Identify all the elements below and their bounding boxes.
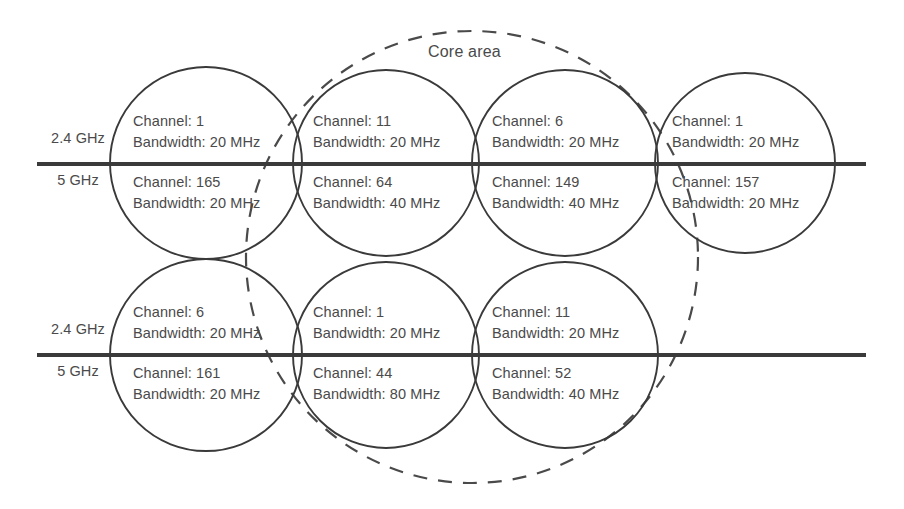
ap-top-1-upper-info: Channel: 1 Bandwidth: 20 MHz (133, 111, 260, 153)
ap-top-2-lower-bandwidth: Bandwidth: 40 MHz (313, 193, 440, 214)
wifi-channel-plan-diagram: Core area 2.4 GHz 5 GHz Channel: 1 Bandw… (0, 0, 904, 509)
ap-top-1-upper-channel: Channel: 1 (133, 111, 260, 132)
diagram-canvas (0, 0, 904, 509)
ap-top-1-lower-info: Channel: 165 Bandwidth: 20 MHz (133, 172, 260, 214)
ap-bottom-1-upper-channel: Channel: 6 (133, 302, 260, 323)
ap-top-4-upper-info: Channel: 1 Bandwidth: 20 MHz (672, 111, 799, 153)
ap-bottom-2-lower-info: Channel: 44 Bandwidth: 80 MHz (313, 363, 440, 405)
ap-bottom-1-upper-info: Channel: 6 Bandwidth: 20 MHz (133, 302, 260, 344)
ap-bottom-1-upper-bandwidth: Bandwidth: 20 MHz (133, 323, 260, 344)
ap-top-3-lower-channel: Channel: 149 (492, 172, 619, 193)
ap-top-3-lower-info: Channel: 149 Bandwidth: 40 MHz (492, 172, 619, 214)
ap-top-1-lower-bandwidth: Bandwidth: 20 MHz (133, 193, 260, 214)
ap-bottom-2-lower-channel: Channel: 44 (313, 363, 440, 384)
ap-bottom-1-lower-info: Channel: 161 Bandwidth: 20 MHz (133, 363, 260, 405)
ap-bottom-3-upper-info: Channel: 11 Bandwidth: 20 MHz (492, 302, 619, 344)
ap-top-1-lower-channel: Channel: 165 (133, 172, 260, 193)
ap-bottom-3-upper-bandwidth: Bandwidth: 20 MHz (492, 323, 619, 344)
band-label-top-24ghz: 2.4 GHz (33, 130, 123, 146)
ap-top-3-lower-bandwidth: Bandwidth: 40 MHz (492, 193, 619, 214)
band-label-top-5ghz: 5 GHz (33, 172, 123, 188)
ap-top-4-lower-channel: Channel: 157 (672, 172, 799, 193)
ap-bottom-3-upper-channel: Channel: 11 (492, 302, 619, 323)
ap-top-3-upper-channel: Channel: 6 (492, 111, 619, 132)
ap-bottom-3-lower-info: Channel: 52 Bandwidth: 40 MHz (492, 363, 619, 405)
ap-bottom-3-lower-channel: Channel: 52 (492, 363, 619, 384)
ap-bottom-2-upper-info: Channel: 1 Bandwidth: 20 MHz (313, 302, 440, 344)
ap-top-2-upper-channel: Channel: 11 (313, 111, 440, 132)
ap-top-4-lower-info: Channel: 157 Bandwidth: 20 MHz (672, 172, 799, 214)
ap-top-2-lower-info: Channel: 64 Bandwidth: 40 MHz (313, 172, 440, 214)
ap-bottom-2-lower-bandwidth: Bandwidth: 80 MHz (313, 384, 440, 405)
ap-bottom-2-upper-bandwidth: Bandwidth: 20 MHz (313, 323, 440, 344)
core-area-label: Core area (428, 43, 501, 61)
band-label-bottom-5ghz: 5 GHz (33, 363, 123, 379)
ap-top-3-upper-bandwidth: Bandwidth: 20 MHz (492, 132, 619, 153)
ap-bottom-3-lower-bandwidth: Bandwidth: 40 MHz (492, 384, 619, 405)
band-label-bottom-24ghz: 2.4 GHz (33, 321, 123, 337)
ap-top-2-upper-bandwidth: Bandwidth: 20 MHz (313, 132, 440, 153)
ap-top-4-upper-channel: Channel: 1 (672, 111, 799, 132)
ap-top-3-upper-info: Channel: 6 Bandwidth: 20 MHz (492, 111, 619, 153)
core-area-boundary (246, 31, 698, 483)
ap-top-2-upper-info: Channel: 11 Bandwidth: 20 MHz (313, 111, 440, 153)
ap-top-1-upper-bandwidth: Bandwidth: 20 MHz (133, 132, 260, 153)
ap-top-2-lower-channel: Channel: 64 (313, 172, 440, 193)
ap-bottom-1-lower-channel: Channel: 161 (133, 363, 260, 384)
ap-top-4-lower-bandwidth: Bandwidth: 20 MHz (672, 193, 799, 214)
ap-bottom-1-lower-bandwidth: Bandwidth: 20 MHz (133, 384, 260, 405)
ap-bottom-2-upper-channel: Channel: 1 (313, 302, 440, 323)
ap-top-4-upper-bandwidth: Bandwidth: 20 MHz (672, 132, 799, 153)
